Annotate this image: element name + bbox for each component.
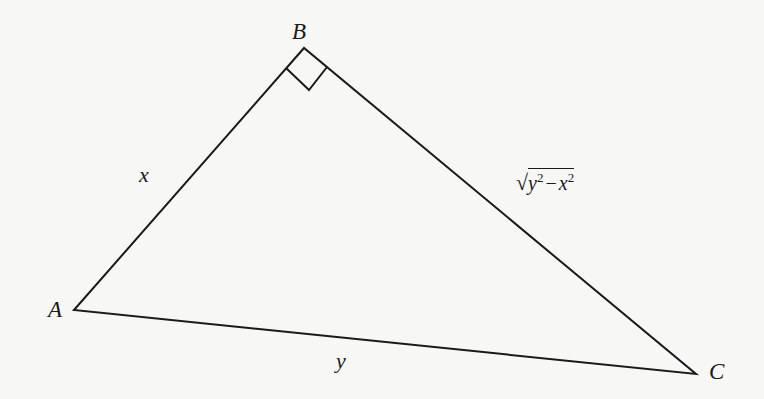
triangle-abc: [74, 48, 696, 374]
radicand-x: x: [559, 172, 568, 194]
side-label-ab: x: [139, 164, 149, 186]
radical-sign: √: [516, 170, 528, 195]
minus-sign: −: [545, 172, 556, 194]
side-label-ac: y: [336, 350, 346, 372]
side-label-bc: √y2−x2: [516, 168, 574, 194]
exponent-y: 2: [537, 170, 544, 185]
exponent-x: 2: [568, 170, 575, 185]
vertex-label-c: C: [709, 360, 724, 383]
vertex-label-a: A: [48, 298, 62, 321]
right-angle-marker: [286, 67, 327, 90]
vertex-label-b: B: [292, 20, 306, 43]
triangle-diagram: [0, 0, 764, 399]
radicand-y: y: [528, 172, 537, 194]
radicand: y2−x2: [528, 168, 574, 193]
